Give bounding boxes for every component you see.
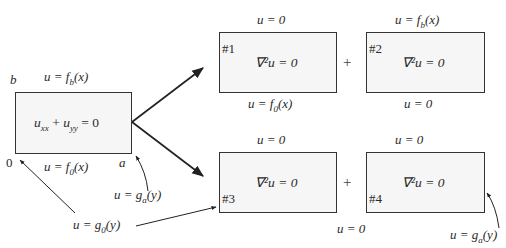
arrow-ga-to-box4 — [487, 193, 499, 228]
corner-label-a: a — [119, 156, 126, 169]
subproblem-4-equation: ∇²u = 0 — [402, 176, 444, 190]
main-right-bc: u = ga(y) — [114, 188, 161, 205]
eq-sub-xx: xx — [41, 123, 49, 133]
subproblem-2-bottom-bc: u = 0 — [404, 97, 432, 110]
eq-u1: u — [34, 115, 41, 130]
main-left-bc: u = g0(y) — [73, 218, 120, 235]
corner-label-0: 0 — [6, 156, 13, 169]
subproblem-4-right-bc: u = ga(y) — [450, 228, 497, 245]
arrow-to-top-row — [132, 68, 203, 122]
subproblem-3-tag: #3 — [222, 192, 235, 205]
subproblem-3-top-bc: u = 0 — [257, 133, 285, 146]
subproblem-1-equation: ∇²u = 0 — [255, 56, 297, 70]
corner-label-b: b — [10, 73, 17, 86]
subproblem-2-equation: ∇²u = 0 — [402, 56, 444, 70]
subproblem-1-bottom-bc: u = f0(x) — [248, 97, 292, 114]
subproblem-4-top-bc: u = 0 — [395, 133, 423, 146]
between-bottom-bc: u = 0 — [337, 222, 365, 235]
main-top-bc: u = fb(x) — [44, 70, 88, 87]
eq-plus: + — [49, 115, 63, 130]
main-bottom-bc: u = f0(x) — [44, 160, 88, 177]
plus-sign-bottom: + — [343, 175, 351, 190]
arrow-ga-to-main — [136, 156, 148, 191]
subproblem-1-tag: #1 — [222, 42, 235, 55]
subproblem-2-top-bc: u = fb(x) — [395, 13, 439, 30]
plus-sign-top: + — [343, 55, 351, 70]
subproblem-3-equation: ∇²u = 0 — [255, 176, 297, 190]
subproblem-1-top-bc: u = 0 — [257, 13, 285, 26]
main-equation: uxx + uyy = 0 — [34, 116, 99, 133]
subproblem-2-tag: #2 — [369, 42, 382, 55]
eq-u2: u — [63, 115, 70, 130]
arrow-g0-to-box3 — [136, 207, 216, 226]
eq-rhs: = 0 — [78, 115, 99, 130]
subproblem-4-tag: #4 — [369, 192, 382, 205]
eq-sub-yy: yy — [70, 123, 78, 133]
